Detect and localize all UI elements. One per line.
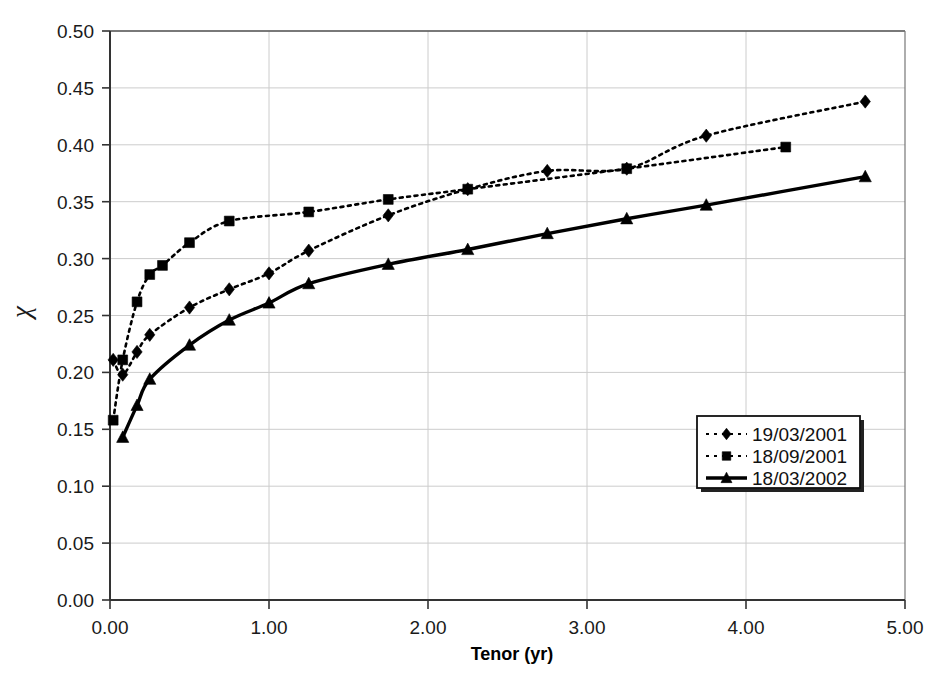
series-marker: [781, 142, 791, 152]
x-axis-tick-label: 1.00: [251, 617, 288, 638]
legend-label: 19/03/2001: [752, 424, 847, 445]
chart-page: 0.000.050.100.150.200.250.300.350.400.45…: [0, 0, 942, 686]
y-axis-tick-label: 0.30: [57, 249, 94, 270]
legend-marker: [722, 452, 731, 461]
y-axis-tick-label: 0.10: [57, 476, 94, 497]
x-axis-title: Tenor (yr): [471, 644, 554, 664]
series-marker: [463, 184, 473, 194]
y-axis-tick-label: 0.25: [57, 306, 94, 327]
y-axis-tick-label: 0.45: [57, 78, 94, 99]
x-axis-tick-label: 3.00: [569, 617, 606, 638]
series-marker: [118, 355, 128, 365]
y-axis-tick-label: 0.40: [57, 135, 94, 156]
series-marker: [145, 270, 155, 280]
legend-label: 18/03/2002: [752, 468, 847, 489]
y-axis-tick-label: 0.05: [57, 533, 94, 554]
x-axis-tick-label: 0.00: [92, 617, 129, 638]
x-axis-tick-label: 2.00: [410, 617, 447, 638]
y-axis-tick-label: 0.00: [57, 590, 94, 611]
y-axis-tick-labels: 0.000.050.100.150.200.250.300.350.400.45…: [57, 21, 94, 611]
series-marker: [622, 164, 632, 174]
x-axis-tick-labels: 0.001.002.003.004.005.00: [92, 617, 924, 638]
legend[interactable]: 19/03/200118/09/200118/03/2002: [697, 416, 864, 492]
series-marker: [158, 261, 168, 271]
y-axis-title: χ: [6, 305, 36, 321]
series-marker: [304, 207, 314, 217]
x-axis-tick-label: 4.00: [728, 617, 765, 638]
series-marker: [383, 195, 393, 205]
series-marker: [132, 297, 142, 307]
y-axis-tick-label: 0.20: [57, 362, 94, 383]
series-marker: [224, 216, 234, 226]
line-chart: 0.000.050.100.150.200.250.300.350.400.45…: [0, 0, 942, 686]
series-marker: [185, 238, 195, 248]
x-axis-tick-label: 5.00: [887, 617, 924, 638]
y-axis-tick-label: 0.35: [57, 192, 94, 213]
series-marker: [108, 415, 118, 425]
legend-label: 18/09/2001: [752, 446, 847, 467]
y-axis-tick-label: 0.15: [57, 419, 94, 440]
y-axis-tick-label: 0.50: [57, 21, 94, 42]
